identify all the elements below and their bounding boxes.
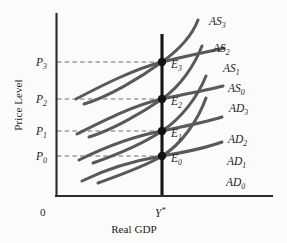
price-label-p3: P3 — [35, 56, 47, 71]
curve-as3 — [84, 20, 198, 104]
curve-label-ad2: AD2 — [227, 133, 247, 148]
equilibrium-label-e3: E3 — [170, 58, 182, 73]
x-axis-title: Real GDP — [111, 223, 157, 235]
potential-output-label: Y* — [155, 206, 165, 219]
curve-label-as1: AS1 — [222, 62, 240, 77]
equilibrium-dot-e1 — [158, 127, 166, 135]
curve-label-as2: AS2 — [212, 42, 230, 57]
equilibrium-dot-e2 — [158, 95, 166, 103]
supply-curve-labels: AS3 AS2 AS1 AS0 — [208, 15, 245, 97]
curve-label-ad0: AD0 — [225, 176, 245, 191]
price-label-p2: P2 — [35, 93, 47, 108]
curve-as0 — [98, 98, 206, 183]
price-label-p0: P0 — [35, 150, 47, 165]
price-tick-labels: P3 P2 P1 P0 — [35, 56, 47, 165]
origin-label: 0 — [40, 206, 46, 218]
curve-label-ad3: AD3 — [228, 102, 248, 117]
price-label-p1: P1 — [35, 125, 47, 140]
curve-label-as0: AS0 — [227, 82, 245, 97]
ad-as-diagram: P3 P2 P1 P0 E3 E2 E1 E0 AS3 AS2 AS1 AS0 … — [0, 0, 287, 243]
curve-as2 — [89, 46, 202, 137]
equilibrium-dot-e0 — [158, 152, 166, 160]
figure-container: P3 P2 P1 P0 E3 E2 E1 E0 AS3 AS2 AS1 AS0 … — [0, 0, 287, 243]
equilibrium-label-e1: E1 — [170, 127, 182, 142]
y-axis-title: Price Level — [12, 79, 24, 130]
demand-curve-labels: AD3 AD2 AD1 AD0 — [225, 102, 248, 191]
curve-label-as3: AS3 — [208, 15, 226, 30]
equilibrium-dot-e3 — [158, 58, 166, 66]
equilibrium-label-e2: E2 — [170, 95, 182, 110]
curve-label-ad1: AD1 — [226, 155, 246, 170]
